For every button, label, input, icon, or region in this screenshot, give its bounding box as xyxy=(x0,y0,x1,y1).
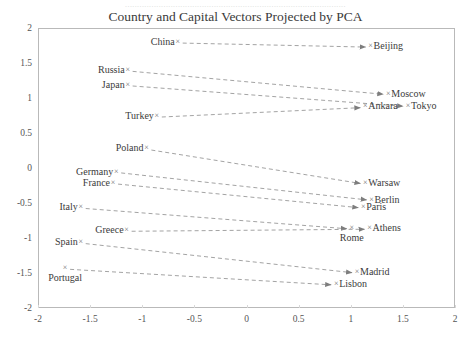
x-tick-label: 2 xyxy=(453,314,458,324)
country-point-marker: × xyxy=(78,203,83,211)
country-capital-vector xyxy=(151,150,360,183)
x-tick-mark xyxy=(351,305,352,308)
country-label: Germany xyxy=(76,167,113,177)
capital-label: Beijing xyxy=(374,41,403,51)
capital-label: Lisbon xyxy=(339,279,367,289)
x-tick-label: 1 xyxy=(348,314,353,324)
country-capital-vector xyxy=(118,184,358,208)
y-tick-label: -1.5 xyxy=(17,268,32,278)
capital-point-marker: × xyxy=(363,102,368,110)
x-tick-mark xyxy=(455,305,456,308)
capital-point-marker: × xyxy=(334,280,339,288)
country-label: China xyxy=(151,37,175,47)
country-label: Poland xyxy=(116,143,144,153)
capital-label: Madrid xyxy=(360,267,389,277)
capital-label: Paris xyxy=(366,202,386,212)
y-tick-label: 1.5 xyxy=(20,58,32,68)
country-point-marker: × xyxy=(114,168,119,176)
x-tick-mark xyxy=(194,305,195,308)
capital-point-marker: × xyxy=(355,268,360,276)
x-tick-mark xyxy=(90,305,91,308)
country-point-marker: × xyxy=(144,144,149,152)
country-capital-vector xyxy=(132,229,365,231)
capital-label: Rome xyxy=(340,233,364,243)
x-tick-label: -1.5 xyxy=(83,314,98,324)
country-point-marker: × xyxy=(125,66,130,74)
x-tick-mark xyxy=(38,305,39,308)
x-tick-mark xyxy=(247,305,248,308)
capital-label: Athens xyxy=(373,223,401,233)
country-point-marker: × xyxy=(63,264,68,272)
country-label: Italy xyxy=(59,202,77,212)
country-capital-vector xyxy=(86,244,352,273)
country-label: Spain xyxy=(55,237,78,247)
y-tick-label: 2 xyxy=(27,23,32,33)
capital-point-marker: × xyxy=(386,90,391,98)
page-top-artifact-text: ........................................… xyxy=(0,0,471,9)
x-tick-label: -1 xyxy=(138,314,146,324)
country-label: Portugal xyxy=(48,273,82,283)
y-tick-label: 0 xyxy=(27,163,32,173)
y-tick-label: 0.5 xyxy=(20,128,32,138)
y-tick-label: -1 xyxy=(24,233,32,243)
capital-label: Moscow xyxy=(391,89,425,99)
capital-point-marker: × xyxy=(350,224,355,232)
chart-root: ........................................… xyxy=(0,0,471,346)
country-point-marker: × xyxy=(175,38,180,46)
x-tick-mark xyxy=(403,305,404,308)
capital-label: Ankara xyxy=(368,101,397,111)
country-label: Greece xyxy=(95,225,123,235)
country-capital-vector xyxy=(121,173,366,200)
x-tick-label: 0.5 xyxy=(293,314,305,324)
country-label: Turkey xyxy=(125,111,154,121)
country-label: Japan xyxy=(102,80,125,90)
capital-label: Tokyo xyxy=(411,101,436,111)
country-capital-vector xyxy=(183,43,366,47)
country-label: France xyxy=(83,178,110,188)
capital-point-marker: × xyxy=(368,42,373,50)
capital-point-marker: × xyxy=(367,224,372,232)
capital-point-marker: × xyxy=(361,203,366,211)
country-capital-vector xyxy=(70,269,331,285)
country-point-marker: × xyxy=(78,238,83,246)
country-point-marker: × xyxy=(124,226,129,234)
capital-point-marker: × xyxy=(363,179,368,187)
chart-title: Country and Capital Vectors Projected by… xyxy=(0,9,471,25)
capital-label: Warsaw xyxy=(368,178,400,188)
x-tick-label: 0 xyxy=(244,314,249,324)
x-tick-mark xyxy=(142,305,143,308)
x-tick-label: -0.5 xyxy=(187,314,202,324)
country-point-marker: × xyxy=(155,112,160,120)
country-capital-vector xyxy=(133,71,384,94)
country-point-marker: × xyxy=(111,179,116,187)
capital-point-marker: × xyxy=(406,102,411,110)
country-label: Russia xyxy=(98,65,125,75)
x-tick-label: 1.5 xyxy=(397,314,409,324)
country-capital-vector xyxy=(162,108,361,117)
y-tick-label: -0.5 xyxy=(17,198,32,208)
country-point-marker: × xyxy=(125,81,130,89)
x-tick-label: -2 xyxy=(34,314,42,324)
x-tick-mark xyxy=(299,305,300,308)
y-tick-label: 1 xyxy=(27,93,32,103)
y-tick-label: -2 xyxy=(24,303,32,313)
